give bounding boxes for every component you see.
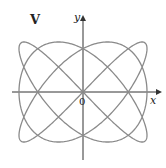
x-axis-arrow-icon <box>156 89 162 95</box>
x-axis-label: x <box>150 94 156 107</box>
y-axis-label: y <box>74 11 80 24</box>
origin-label: 0 <box>79 96 85 107</box>
lissajous-figure: V y x 0 <box>0 0 166 168</box>
plot-area <box>0 0 166 168</box>
y-axis-arrow-icon <box>80 15 86 21</box>
panel-label: V <box>30 12 40 27</box>
